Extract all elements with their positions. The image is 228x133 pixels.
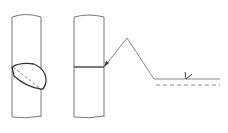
- weld-diagram: [0, 0, 228, 133]
- tube-with-joint-line: [74, 15, 104, 118]
- tube-with-weld-view: [12, 15, 46, 118]
- arrow-leader: [104, 38, 154, 79]
- weld-symbol-icon: [185, 72, 192, 79]
